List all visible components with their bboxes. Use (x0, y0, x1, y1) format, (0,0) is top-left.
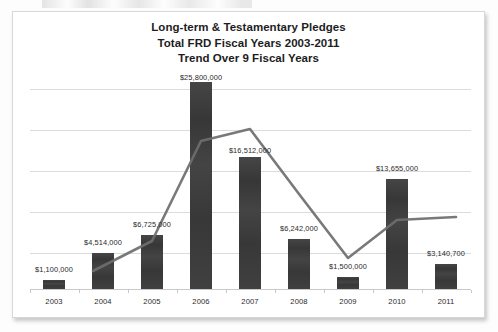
tick-mark (30, 290, 31, 293)
tick-mark (177, 290, 178, 293)
scanned-page: Long-term & Testamentary Pledges Total F… (0, 0, 498, 332)
value-label-2004: $4,514,000 (84, 238, 122, 247)
x-axis-label-2008: 2008 (290, 297, 307, 307)
chart-title-line-3: Trend Over 9 Fiscal Years (13, 51, 484, 67)
value-label-2011: $3,140,700 (427, 249, 465, 258)
x-axis-label-2006: 2006 (192, 297, 209, 307)
plot-area: $1,100,000 $4,514,000 $6,725,000 $25,800… (30, 77, 471, 290)
value-label-2005: $6,725,000 (133, 220, 171, 229)
value-label-2006: $25,800,000 (180, 73, 222, 82)
trend-line-path (93, 129, 456, 271)
x-axis-label-2011: 2011 (438, 297, 455, 307)
x-axis-label-2004: 2004 (94, 297, 111, 307)
value-label-2009: $1,500,000 (329, 262, 367, 271)
scan-artifact (42, 0, 252, 8)
value-label-2010: $13,655,000 (376, 164, 418, 173)
tick-mark (471, 290, 472, 293)
chart-title-line-2: Total FRD Fiscal Years 2003-2011 (13, 36, 484, 52)
tick-mark (128, 290, 129, 293)
tick-mark (324, 290, 325, 293)
value-label-2007: $16,512,000 (229, 146, 271, 155)
chart-title-line-1: Long-term & Testamentary Pledges (13, 20, 484, 36)
trend-line (30, 77, 471, 290)
value-label-2003: $1,100,000 (35, 265, 73, 274)
x-axis-label-2009: 2009 (339, 297, 356, 307)
tick-mark (422, 290, 423, 293)
x-axis-label-2010: 2010 (388, 297, 405, 307)
x-axis-label-2003: 2003 (45, 297, 62, 307)
tick-mark (275, 290, 276, 293)
tick-mark (373, 290, 374, 293)
chart-title: Long-term & Testamentary Pledges Total F… (13, 20, 484, 67)
tick-mark (79, 290, 80, 293)
x-axis-label-2007: 2007 (241, 297, 258, 307)
x-axis-label-2005: 2005 (143, 297, 160, 307)
value-label-2008: $6,242,000 (280, 224, 318, 233)
chart-card: Long-term & Testamentary Pledges Total F… (12, 11, 485, 318)
tick-mark (226, 290, 227, 293)
